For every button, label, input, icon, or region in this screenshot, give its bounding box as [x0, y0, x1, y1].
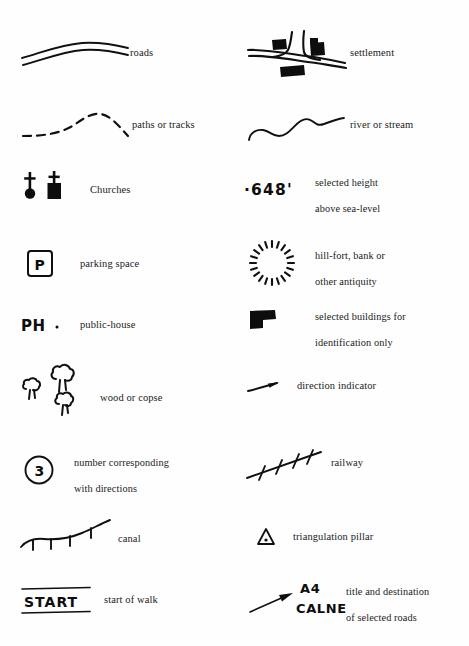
start-of-walk-label: start of walk — [104, 594, 158, 607]
road-destination-text: CALNE — [296, 601, 347, 616]
start-of-walk-symbol: START — [18, 580, 104, 620]
start-of-walk-symbol-text: START — [24, 594, 78, 610]
legend-entry-public-house: PH public-house — [18, 305, 233, 345]
selected-buildings-symbol — [243, 300, 315, 348]
parking-space-symbol-text: P — [35, 257, 45, 273]
road-title-destination-label-line-1: title and destination — [346, 586, 429, 597]
railway-symbol — [243, 440, 331, 490]
wood-or-copse-symbol — [18, 362, 100, 420]
wood-or-copse-label: wood or copse — [100, 392, 163, 405]
legend-entry-parking-space: P parking space — [20, 243, 235, 285]
roads-label: roads — [130, 47, 153, 60]
legend-entry-hill-fort: hill-fort, bank or other antiquity — [243, 236, 465, 290]
settlement-label: settlement — [350, 47, 394, 60]
direction-indicator-label: direction indicator — [297, 380, 376, 393]
legend-entry-direction-indicator: direction indicator — [243, 368, 465, 404]
selected-height-label: selected height above sea-level — [315, 165, 380, 215]
legend-entry-settlement: settlement — [246, 28, 461, 78]
legend-entry-churches: Churches — [20, 168, 235, 212]
road-title-destination-label: title and destination of selected roads — [346, 574, 429, 624]
triangulation-pillar-symbol — [243, 516, 293, 558]
canal-label: canal — [118, 533, 141, 546]
church-with-tower-glyph — [24, 172, 35, 199]
hill-fort-label-line-1: hill-fort, bank or — [315, 250, 385, 261]
churches-label: Churches — [90, 184, 130, 197]
selected-buildings-label: selected buildings for identification on… — [315, 299, 406, 349]
public-house-dot — [56, 326, 59, 329]
river-or-stream-symbol — [246, 105, 350, 145]
legend-entry-triangulation-pillar: triangulation pillar — [243, 516, 465, 558]
paths-or-tracks-label: paths or tracks — [132, 119, 195, 132]
legend-entry-selected-buildings: selected buildings for identification on… — [243, 300, 465, 348]
legend-entry-selected-height: ·648' selected height above sea-level — [243, 168, 465, 212]
tree-glyph-small-left — [23, 378, 40, 399]
settlement-symbol — [246, 28, 350, 78]
selected-height-label-line-2: above sea-level — [315, 203, 380, 214]
paths-or-tracks-symbol — [20, 105, 132, 145]
roads-symbol — [20, 32, 130, 74]
legend-entry-wood-or-copse: wood or copse — [18, 362, 233, 420]
number-corresponding-symbol: 3 — [18, 448, 74, 492]
public-house-symbol: PH — [18, 305, 80, 345]
legend-entry-canal: canal — [18, 512, 233, 560]
parking-space-label: parking space — [80, 258, 139, 271]
radial-tick-circle-glyph — [250, 241, 294, 285]
selected-buildings-label-line-1: selected buildings for — [315, 311, 406, 322]
church-with-spire-glyph — [48, 171, 62, 199]
tree-glyph-large-top — [52, 365, 74, 392]
road-title-destination-symbol: A4 CALNE — [248, 575, 346, 623]
number-corresponding-label-line-2: with directions — [74, 483, 137, 494]
selected-height-label-line-1: selected height — [315, 177, 378, 188]
hill-fort-label: hill-fort, bank or other antiquity — [315, 238, 385, 288]
road-title-destination-label-line-2: of selected roads — [346, 612, 417, 623]
legend-entry-paths-or-tracks: paths or tracks — [20, 105, 235, 145]
direction-indicator-symbol — [243, 368, 297, 404]
legend-entry-road-title-destination: A4 CALNE title and destination of select… — [248, 575, 468, 623]
legend-entry-roads: roads — [20, 32, 225, 74]
hill-fort-label-line-2: other antiquity — [315, 276, 377, 287]
canal-symbol — [18, 512, 118, 560]
churches-symbol — [20, 168, 90, 212]
selected-height-symbol: ·648' — [243, 168, 315, 212]
legend-entry-start-of-walk: START start of walk — [18, 580, 233, 620]
river-or-stream-label: river or stream — [350, 119, 413, 132]
legend-entry-railway: railway — [243, 440, 465, 490]
tree-glyph-small-bottom — [55, 393, 73, 415]
selected-height-symbol-text: ·648' — [244, 181, 293, 199]
number-corresponding-label: number corresponding with directions — [74, 445, 169, 495]
railway-label: railway — [331, 457, 363, 470]
map-legend-sheet: roads settlement paths or tracks — [0, 0, 469, 646]
legend-entry-river-or-stream: river or stream — [246, 105, 461, 145]
parking-space-symbol: P — [20, 243, 80, 285]
hill-fort-symbol — [243, 236, 315, 290]
road-title-text: A4 — [300, 581, 320, 596]
public-house-label: public-house — [80, 319, 135, 332]
selected-buildings-label-line-2: identification only — [315, 337, 393, 348]
number-corresponding-symbol-text: 3 — [35, 463, 45, 479]
legend-entry-number-corresponding: 3 number corresponding with directions — [18, 448, 233, 492]
triangulation-pillar-label: triangulation pillar — [293, 531, 373, 544]
number-corresponding-label-line-1: number corresponding — [74, 457, 169, 468]
public-house-symbol-text: PH — [21, 317, 46, 335]
